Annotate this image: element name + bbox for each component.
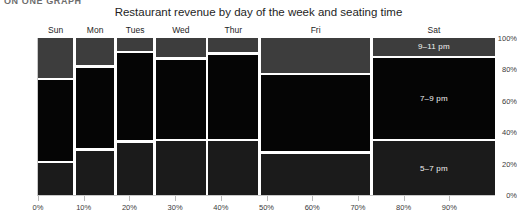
mosaic-cell-thur-5-7-pm[interactable]	[208, 141, 258, 195]
column-header-wed: Wed	[156, 25, 206, 35]
mosaic-cell-fri-7-9-pm[interactable]	[261, 75, 370, 151]
x-axis-tick-label: 70%	[350, 203, 365, 212]
mosaic-column-mon[interactable]	[76, 38, 115, 195]
mosaic-cell-thur-7-9-pm[interactable]	[208, 55, 258, 139]
segment-label-7-9-pm: 7–9 pm	[420, 94, 448, 103]
mosaic-cell-tues-7-9-pm[interactable]	[117, 53, 153, 140]
segment-label-9-11-pm: 9–11 pm	[418, 42, 450, 51]
column-header-sat: Sat	[373, 25, 495, 35]
mosaic-cell-mon-9-11-pm[interactable]	[76, 38, 115, 65]
mosaic-cell-wed-5-7-pm[interactable]	[156, 141, 206, 195]
mosaic-cell-thur-9-11-pm[interactable]	[208, 38, 258, 52]
x-axis-tick-mark	[358, 196, 359, 201]
column-header-sun: Sun	[38, 25, 73, 35]
mosaic-column-fri[interactable]	[261, 38, 370, 195]
mosaic-cell-wed-9-11-pm[interactable]	[156, 38, 206, 57]
x-axis-tick-label: 50%	[259, 203, 274, 212]
x-axis-tick-label: 30%	[168, 203, 183, 212]
mosaic-cell-sat-9-11-pm[interactable]: 9–11 pm	[373, 38, 495, 56]
x-axis-tick-mark	[404, 196, 405, 201]
x-axis-tick-label: 60%	[305, 203, 320, 212]
x-axis-tick-mark	[221, 196, 222, 201]
column-header-thur: Thur	[208, 25, 258, 35]
column-header-mon: Mon	[76, 25, 115, 35]
mosaic-cell-sat-7-9-pm[interactable]: 7–9 pm	[373, 58, 495, 139]
x-axis-tick-mark	[84, 196, 85, 201]
mosaic-cell-sat-5-7-pm[interactable]: 5–7 pm	[373, 141, 495, 195]
mosaic-cell-sun-5-7-pm[interactable]	[38, 163, 73, 195]
mosaic-cell-sun-9-11-pm[interactable]	[38, 38, 73, 78]
x-axis-tick-label: 40%	[213, 203, 228, 212]
x-axis-tick-label: 20%	[122, 203, 137, 212]
x-axis-tick-label: 0%	[33, 203, 44, 212]
mosaic-column-tues[interactable]	[117, 38, 153, 195]
mosaic-cell-sun-7-9-pm[interactable]	[38, 80, 73, 161]
mosaic-cell-fri-5-7-pm[interactable]	[261, 154, 370, 195]
column-header-tues: Tues	[117, 25, 153, 35]
x-axis-tick-mark	[129, 196, 130, 201]
x-axis-tick-mark	[267, 196, 268, 201]
x-axis-tick-mark	[175, 196, 176, 201]
x-axis-tick-mark	[38, 196, 39, 201]
mosaic-cell-mon-5-7-pm[interactable]	[76, 151, 115, 195]
x-axis-tick-label: 90%	[442, 203, 457, 212]
mosaic-column-wed[interactable]	[156, 38, 206, 195]
mosaic-cell-wed-7-9-pm[interactable]	[156, 60, 206, 139]
x-axis-tick-label: 80%	[396, 203, 411, 212]
column-header-fri: Fri	[261, 25, 370, 35]
x-axis-tick-mark	[312, 196, 313, 201]
x-axis-tick-mark	[449, 196, 450, 201]
mosaic-cell-tues-9-11-pm[interactable]	[117, 38, 153, 51]
segment-label-5-7-pm: 5–7 pm	[420, 164, 448, 173]
mosaic-column-sat[interactable]: 9–11 pm7–9 pm5–7 pm	[373, 38, 495, 195]
mosaic-chart-plot-area: 0%20%40%60%80%100%0%10%20%30%40%50%60%70…	[0, 0, 517, 223]
mosaic-cell-tues-5-7-pm[interactable]	[117, 143, 153, 195]
x-axis-tick-label: 10%	[76, 203, 91, 212]
mosaic-column-thur[interactable]	[208, 38, 258, 195]
mosaic-column-sun[interactable]	[38, 38, 73, 195]
mosaic-cell-fri-9-11-pm[interactable]	[261, 38, 370, 73]
mosaic-cell-mon-7-9-pm[interactable]	[76, 68, 115, 149]
